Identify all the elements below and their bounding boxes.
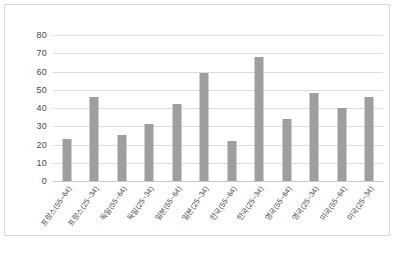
x-axis-label-slot: 일본(25~34) xyxy=(191,185,219,186)
bar-slot xyxy=(301,35,329,181)
bar-slot xyxy=(81,35,109,181)
y-axis-tick-label: 10 xyxy=(37,158,47,168)
bar-slot xyxy=(218,35,246,181)
x-axis-label-slot: 영국(25~34) xyxy=(301,185,329,186)
y-axis-tick-label: 80 xyxy=(37,30,47,40)
bar[interactable] xyxy=(200,73,209,181)
bar[interactable] xyxy=(365,97,374,181)
bar-slot xyxy=(273,35,301,181)
y-axis-tick-label: 30 xyxy=(37,121,47,131)
bar-slot xyxy=(328,35,356,181)
bar[interactable] xyxy=(62,139,71,181)
bar-slot xyxy=(163,35,191,181)
x-axis-tick-label: 영국(55~64) xyxy=(264,185,293,222)
x-axis-label-slot: 미국(25~34) xyxy=(356,185,384,186)
x-axis-label-slot: 프랑스(25~34) xyxy=(81,185,109,186)
x-axis-tick-label: 일본(55~64) xyxy=(154,185,183,222)
bar[interactable] xyxy=(90,97,99,181)
y-axis-tick-label: 60 xyxy=(37,67,47,77)
bar[interactable] xyxy=(255,57,264,181)
x-axis-labels: 프랑스(55~64)프랑스(25~34)독일(55~64)독일(25~34)일본… xyxy=(53,185,383,235)
x-axis-tick-label: 영국(25~34) xyxy=(291,185,320,222)
x-axis-tick-label: 독일(25~34) xyxy=(126,185,155,222)
x-axis-label-slot: 한국(55~64) xyxy=(218,185,246,186)
x-axis-label-slot: 영국(55~64) xyxy=(273,185,301,186)
x-axis-label-slot: 일본(55~64) xyxy=(163,185,191,186)
x-axis-label-slot: 독일(55~64) xyxy=(108,185,136,186)
bar[interactable] xyxy=(117,135,126,181)
y-axis-tick-label: 40 xyxy=(37,103,47,113)
x-axis-label-slot: 미국(55~64) xyxy=(328,185,356,186)
x-axis-tick-label: 미국(25~34) xyxy=(346,185,375,222)
x-axis-tick-label: 독일(55~64) xyxy=(99,185,128,222)
bar[interactable] xyxy=(227,141,236,181)
bar[interactable] xyxy=(310,93,319,181)
bar[interactable] xyxy=(145,124,154,181)
bar-slot xyxy=(108,35,136,181)
bars-container xyxy=(53,35,383,181)
x-axis-label-slot: 한국(25~34) xyxy=(246,185,274,186)
y-axis: 01020304050607080 xyxy=(5,5,53,235)
y-axis-tick-label: 70 xyxy=(37,48,47,58)
x-axis-label-slot: 프랑스(55~64) xyxy=(53,185,81,186)
bar[interactable] xyxy=(337,108,346,181)
chart-frame: 01020304050607080 프랑스(55~64)프랑스(25~34)독일… xyxy=(4,4,390,236)
y-axis-tick-label: 20 xyxy=(37,140,47,150)
chart-plot-area: 01020304050607080 프랑스(55~64)프랑스(25~34)독일… xyxy=(5,5,389,235)
x-axis-tick-label: 한국(55~64) xyxy=(209,185,238,222)
y-axis-tick-label: 0 xyxy=(42,176,47,186)
bar-slot xyxy=(246,35,274,181)
x-axis-label-slot: 독일(25~34) xyxy=(136,185,164,186)
bar-slot xyxy=(136,35,164,181)
x-axis-tick-label: 미국(55~64) xyxy=(319,185,348,222)
y-axis-tick-label: 50 xyxy=(37,85,47,95)
bar[interactable] xyxy=(282,119,291,181)
bar[interactable] xyxy=(172,104,181,181)
x-axis-tick-label: 한국(25~34) xyxy=(236,185,265,222)
bar-slot xyxy=(356,35,384,181)
bar-slot xyxy=(191,35,219,181)
x-axis-tick-label: 일본(25~34) xyxy=(181,185,210,222)
axis-baseline xyxy=(53,181,383,182)
bar-slot xyxy=(53,35,81,181)
